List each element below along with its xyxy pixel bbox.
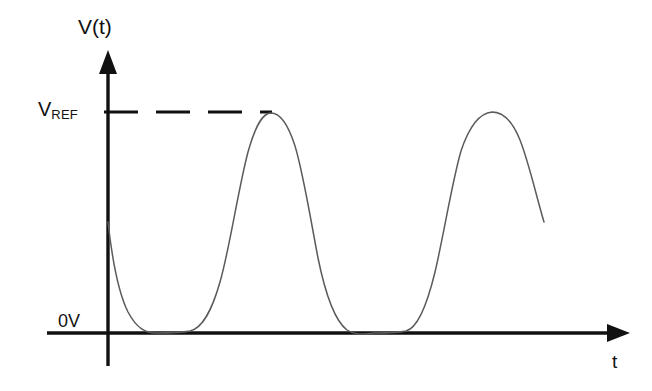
x-axis-label: t [612,352,617,371]
zero-level-label: 0V [58,312,80,330]
v-of-t-curve [108,112,544,334]
x-axis-arrow-icon [607,324,630,342]
vref-label: VREF [38,99,78,119]
vref-label-subscript: REF [51,107,78,122]
vref-label-main: V [38,98,51,120]
waveform-plot [0,0,652,391]
y-axis-arrow-icon [99,50,117,74]
y-axis-label: V(t) [78,16,112,37]
waveform-figure: V(t) VREF 0V t [0,0,652,391]
